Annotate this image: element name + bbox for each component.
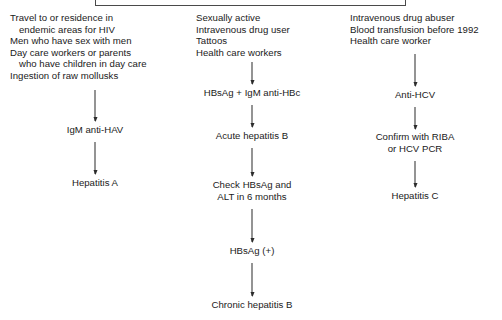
arrow-hbsag-to-acute-hepatitis-b bbox=[252, 105, 253, 127]
risk-factor-line: Tattoos bbox=[196, 35, 227, 46]
node-confirm-riba-hcv-pcr: Confirm with RIBAor HCV PCR bbox=[376, 131, 455, 154]
risk-factor-line: Travel to or residence in bbox=[10, 12, 113, 23]
arrow-risk-to-igm-anti-hav bbox=[95, 90, 96, 121]
risk-factors-hepatitis-c: Intravenous drug abuserBlood transfusion… bbox=[350, 12, 479, 47]
node-line: or HCV PCR bbox=[388, 143, 443, 154]
risk-factor-line: Health care worker bbox=[350, 35, 431, 46]
risk-factor-line: Intravenous drug abuser bbox=[350, 12, 454, 23]
arrow-anti-hcv-to-confirm bbox=[415, 107, 416, 129]
risk-factor-line: Men who have sex with men bbox=[10, 35, 132, 46]
node-hbsag-plus-igm-anti-hbc: HBsAg + IgM anti-HBc bbox=[204, 87, 301, 99]
arrow-acute-to-check-hbsag bbox=[252, 148, 253, 176]
risk-factor-line: Intravenous drug user bbox=[196, 24, 290, 35]
top-title-box bbox=[95, 0, 406, 6]
risk-factor-line: Day care workers or parents bbox=[10, 47, 131, 58]
arrow-risk-to-anti-hcv bbox=[415, 54, 416, 86]
risk-factor-line: Ingestion of raw mollusks bbox=[10, 70, 118, 81]
node-hepatitis-a: Hepatitis A bbox=[72, 177, 118, 189]
node-line: Check HBsAg and bbox=[213, 179, 292, 190]
node-hepatitis-c: Hepatitis C bbox=[391, 190, 438, 202]
node-chronic-hepatitis-b: Chronic hepatitis B bbox=[212, 299, 293, 311]
risk-factors-hepatitis-a: Travel to or residence inendemic areas f… bbox=[10, 12, 147, 82]
node-acute-hepatitis-b: Acute hepatitis B bbox=[216, 130, 288, 142]
risk-factor-line: Blood transfusion before 1992 bbox=[350, 24, 479, 35]
arrow-check-to-hbsag-positive bbox=[252, 209, 253, 242]
risk-factor-line: who have children in day care bbox=[10, 58, 147, 70]
arrow-hbsag-positive-to-chronic bbox=[252, 263, 253, 296]
node-check-hbsag-alt: Check HBsAg andALT in 6 months bbox=[213, 179, 292, 202]
flowchart-canvas: Travel to or residence inendemic areas f… bbox=[0, 0, 502, 320]
risk-factor-line: endemic areas for HIV bbox=[10, 24, 147, 36]
node-line: ALT in 6 months bbox=[217, 191, 286, 202]
risk-factor-line: Health care workers bbox=[196, 47, 282, 58]
node-anti-hcv: Anti-HCV bbox=[395, 89, 435, 101]
arrow-confirm-to-hepatitis-c bbox=[415, 161, 416, 187]
risk-factors-hepatitis-b: Sexually activeIntravenous drug userTatt… bbox=[196, 12, 290, 58]
node-line: Confirm with RIBA bbox=[376, 131, 455, 142]
node-igm-anti-hav: IgM anti-HAV bbox=[67, 124, 124, 136]
node-hbsag-positive: HBsAg (+) bbox=[230, 245, 275, 257]
arrow-risk-to-hbsag-igm bbox=[252, 62, 253, 84]
arrow-igm-anti-hav-to-hepatitis-a bbox=[95, 142, 96, 174]
risk-factor-line: Sexually active bbox=[196, 12, 260, 23]
